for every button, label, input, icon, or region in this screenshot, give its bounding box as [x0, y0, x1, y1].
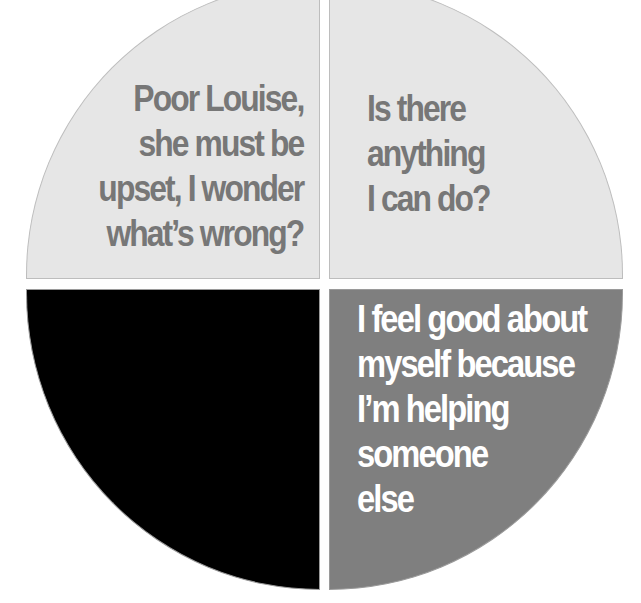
quadrant-bottom-left — [26, 289, 320, 590]
text-line: myself because — [357, 342, 586, 387]
text-line: I’m helping — [357, 387, 586, 432]
quadrant-top-left-text: Poor Louise, she must be upset, I wonder… — [98, 76, 303, 256]
text-line: Is there — [367, 86, 490, 131]
text-line: I feel good about — [357, 297, 586, 342]
text-line: upset, I wonder — [98, 166, 303, 211]
text-line: Poor Louise, — [98, 76, 303, 121]
text-line: what’s wrong? — [98, 211, 303, 256]
text-line: anything — [367, 131, 490, 176]
quadrant-top-right-text: Is there anything I can do? — [367, 86, 490, 221]
text-line: I can do? — [367, 176, 490, 221]
text-line: else — [357, 477, 586, 522]
quadrant-bottom-right-text: I feel good about myself because I’m hel… — [357, 297, 586, 522]
text-line: she must be — [98, 121, 303, 166]
text-line: someone — [357, 432, 586, 477]
